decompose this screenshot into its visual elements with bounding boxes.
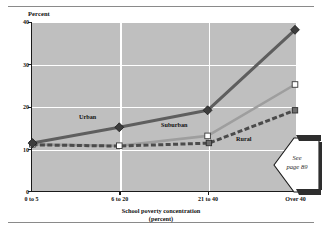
callout-line-1: See (272, 154, 322, 161)
marker-suburban-over-40 (292, 82, 298, 88)
series-label-suburban: Suburban (161, 121, 188, 128)
series-label-rural: Rural (236, 135, 251, 142)
see-page-callout[interactable]: See page 89 (272, 132, 322, 198)
marker-suburban-21-to-40 (205, 133, 211, 139)
marker-rural-over-40 (292, 108, 297, 113)
figure-container: Percent 40 30 20 10 0 0 to 5 6 to 20 21 … (0, 0, 322, 232)
callout-line-2: page 89 (272, 163, 322, 170)
marker-urban-6-to-20 (115, 123, 124, 132)
marker-rural-21-to-40 (206, 140, 211, 145)
series-label-urban: Urban (79, 113, 96, 120)
marker-suburban-6-to-20 (117, 143, 123, 149)
